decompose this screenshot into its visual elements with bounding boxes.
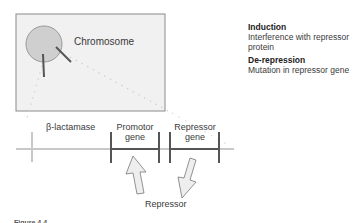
- repressor-line1: Repressor: [168, 122, 222, 132]
- repressor-label: Repressor: [145, 199, 187, 209]
- chromosome-label: Chromosome: [74, 37, 134, 47]
- plasmid-stick-vertical: [43, 54, 44, 77]
- legend-induction-desc2: protein: [248, 42, 353, 52]
- legend: Induction Interference with repressor pr…: [248, 22, 353, 78]
- legend-induction-title: Induction: [248, 22, 353, 32]
- legend-derepression-title: De-repression: [248, 55, 353, 65]
- repressor-gene-label: Repressor gene: [168, 122, 222, 142]
- repressor-line2: gene: [168, 132, 222, 142]
- promotor-gene-label: Promotor gene: [110, 122, 160, 142]
- promotor-line2: gene: [110, 132, 160, 142]
- legend-derepression: De-repression Mutation in repressor gene: [248, 55, 353, 75]
- promotor-line1: Promotor: [110, 122, 160, 132]
- arrow-up-icon: [126, 156, 146, 194]
- figure-caption: Figure 4.4: [14, 219, 47, 223]
- arrow-down-icon: [178, 158, 196, 198]
- legend-derepression-desc1: Mutation in repressor gene: [248, 65, 353, 75]
- legend-induction-desc1: Interference with repressor: [248, 32, 353, 42]
- legend-induction: Induction Interference with repressor pr…: [248, 22, 353, 52]
- beta-lactamase-label: β-lactamase: [46, 122, 95, 132]
